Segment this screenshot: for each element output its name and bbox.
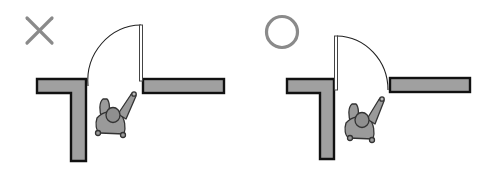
person-icon (96, 92, 137, 138)
person-icon (345, 97, 384, 143)
wall-right (390, 78, 470, 92)
door-leaf (140, 25, 143, 81)
panel-correct (267, 17, 471, 160)
wall-right (143, 79, 224, 93)
cross-mark-icon (27, 18, 52, 43)
wall-left-l (37, 79, 86, 161)
door-swing-diagram: × ○ (0, 0, 495, 175)
circle-mark-icon (267, 17, 298, 48)
door-leaf (335, 36, 338, 90)
door-swing-arc (88, 25, 141, 86)
panel-incorrect (27, 18, 224, 161)
door-swing-arc (337, 36, 388, 90)
wall-left-l (287, 79, 334, 159)
